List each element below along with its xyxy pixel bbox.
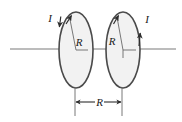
separation-dimension-group: R <box>75 87 122 116</box>
left-coil-radius-label: R <box>75 36 83 48</box>
separation-dimension-label: R <box>95 96 103 108</box>
figure-canvas: R I R I R <box>0 0 182 122</box>
right-coil-radius-label: R <box>108 35 116 47</box>
left-coil-current-arrow-left <box>59 17 60 28</box>
left-coil-current-label: I <box>47 12 53 24</box>
physics-figure-helmholtz-coils: R I R I R <box>0 0 182 122</box>
right-coil-current-label: I <box>144 13 150 25</box>
left-coil-group: R I <box>47 12 93 88</box>
right-coil-group: R I <box>106 12 150 88</box>
